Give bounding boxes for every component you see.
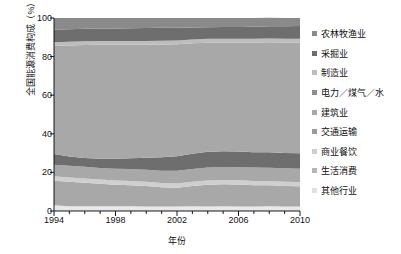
legend-item-label: 生活消费 [321, 164, 357, 177]
legend-item[interactable]: 制造业 [312, 63, 400, 83]
legend-item-label: 采掘业 [321, 47, 348, 60]
area-band [54, 42, 300, 158]
legend-swatch-icon [312, 31, 317, 36]
legend-item[interactable]: 生活消费 [312, 161, 400, 181]
legend-item[interactable]: 电力／煤气／水 [312, 83, 400, 103]
legend-item-label: 建筑业 [321, 106, 348, 119]
legend-item[interactable]: 采掘业 [312, 44, 400, 64]
legend-swatch-icon [312, 129, 317, 134]
legend-swatch-icon [312, 188, 317, 193]
legend-item-label: 电力／煤气／水 [321, 86, 384, 99]
legend-item[interactable]: 建筑业 [312, 102, 400, 122]
legend-swatch-icon [312, 70, 317, 75]
legend-item-label: 其他行业 [321, 184, 357, 197]
legend-swatch-icon [312, 51, 317, 56]
legend-item-label: 农林牧渔业 [321, 27, 366, 40]
chart-legend: 农林牧渔业采掘业制造业电力／煤气／水建筑业交通运输商业餐饮生活消费其他行业 [312, 24, 400, 200]
legend-item-label: 商业餐饮 [321, 145, 357, 158]
legend-item[interactable]: 农林牧渔业 [312, 24, 400, 44]
area-series-group [54, 18, 300, 211]
legend-swatch-icon [312, 149, 317, 154]
legend-item-label: 交通运输 [321, 125, 357, 138]
legend-item[interactable]: 交通运输 [312, 122, 400, 142]
legend-swatch-icon [312, 90, 317, 95]
legend-item-label: 制造业 [321, 66, 348, 79]
legend-swatch-icon [312, 110, 317, 115]
stacked-area-chart: 全国能源消费构成（%） 100 80 60 40 20 0 1994 1998 … [0, 0, 401, 254]
legend-item[interactable]: 商业餐饮 [312, 142, 400, 162]
legend-item[interactable]: 其他行业 [312, 181, 400, 201]
legend-swatch-icon [312, 168, 317, 173]
